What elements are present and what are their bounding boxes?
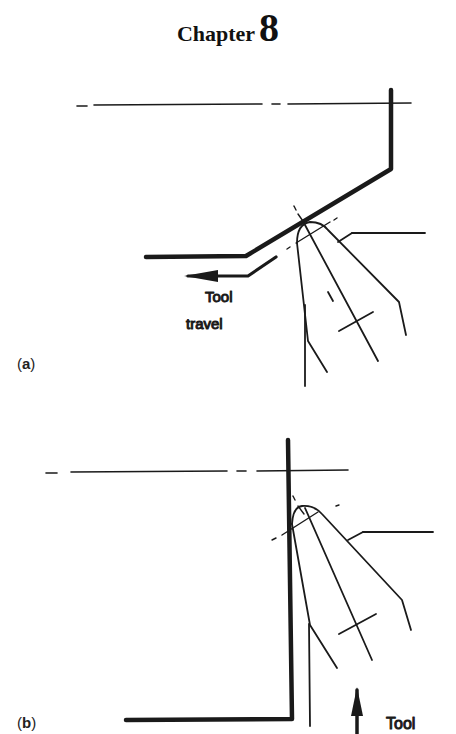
nose-construction-lines-b [272, 496, 339, 540]
tool-travel-label-line1: Tool [205, 288, 233, 305]
cutting-tool-b [292, 506, 433, 726]
cutting-tool-a [297, 222, 425, 386]
centre-line-a [77, 103, 411, 106]
tool-feed-arrow-b [351, 687, 363, 734]
tool-travel-label-line2: travel [186, 315, 223, 332]
turning-tool-diagram: Tool travel (a) [0, 0, 456, 734]
workpiece-profile-b [126, 440, 292, 720]
panel-label-a: (a) [17, 355, 35, 372]
figure-a: Tool travel [77, 90, 425, 386]
panel-label-b: (b) [17, 714, 36, 731]
centre-line-b [46, 470, 348, 473]
tool-travel-arrow-a [184, 257, 276, 282]
workpiece-profile-a [146, 90, 391, 257]
tool-feed-label: Tool [386, 715, 415, 732]
figure-b: Tool [46, 440, 433, 734]
